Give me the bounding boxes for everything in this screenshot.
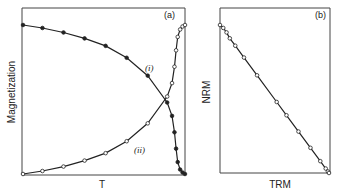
data-point <box>125 56 129 60</box>
data-point <box>242 56 246 60</box>
data-point <box>165 101 169 105</box>
data-point <box>285 113 289 117</box>
data-point <box>174 49 178 53</box>
panel-b-frame <box>220 8 330 173</box>
series-line-1 <box>23 25 185 174</box>
panel-a-series <box>21 23 187 176</box>
panel-a-label: (a) <box>164 10 175 20</box>
data-point <box>41 26 45 30</box>
data-point <box>21 172 25 176</box>
panel-a-ylabel: Magnetization <box>6 61 17 123</box>
data-point <box>146 74 150 78</box>
data-point <box>176 160 180 164</box>
data-point <box>255 74 259 78</box>
data-point <box>218 23 222 27</box>
panel-b: (b) TRM NRM <box>201 8 331 190</box>
panel-b-ylabel: NRM <box>201 81 212 104</box>
data-point <box>221 26 225 30</box>
data-point <box>21 23 25 27</box>
figure: (a) T Magnetization (i) (ii) (b) TRM NRM <box>0 0 345 192</box>
panel-a: (a) T Magnetization (i) (ii) <box>6 8 187 190</box>
data-point <box>173 65 177 69</box>
data-point <box>146 122 150 126</box>
data-point <box>275 100 279 104</box>
data-point <box>183 23 187 27</box>
data-point <box>183 172 187 176</box>
data-point <box>297 130 301 134</box>
data-point <box>104 151 108 155</box>
data-point <box>165 95 169 99</box>
panel-a-frame <box>22 8 185 175</box>
data-point <box>309 146 313 150</box>
panel-b-label: (b) <box>315 10 326 20</box>
series-line-0 <box>23 25 185 174</box>
data-point <box>62 31 66 35</box>
data-point <box>318 159 322 163</box>
data-point <box>125 139 129 143</box>
data-point <box>327 171 331 175</box>
data-point <box>104 44 108 48</box>
panel-a-xlabel: T <box>99 179 105 190</box>
data-point <box>170 114 174 118</box>
data-point <box>41 169 45 173</box>
data-point <box>62 165 66 169</box>
data-point <box>174 147 178 151</box>
curve-label-i: (i) <box>145 63 154 73</box>
panel-b-xlabel: TRM <box>269 179 291 190</box>
data-point <box>228 37 232 41</box>
curve-label-ii: (ii) <box>134 145 145 155</box>
data-point <box>176 35 180 39</box>
panel-b-series <box>218 23 331 175</box>
data-point <box>170 81 174 85</box>
data-point <box>173 130 177 134</box>
data-point <box>83 159 87 163</box>
data-point <box>225 31 229 35</box>
data-point <box>83 37 87 41</box>
data-point <box>233 44 237 48</box>
